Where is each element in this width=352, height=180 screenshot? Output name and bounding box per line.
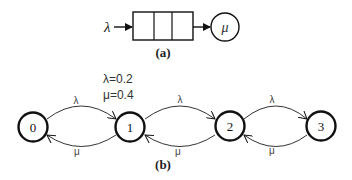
backward-rate-label: μ	[74, 146, 80, 157]
figure-b-markov-chain: λ=0.2 μ=0.4 λ λ λ μ μ μ 0 1 2 3	[19, 72, 336, 172]
service-rate-label: μ	[220, 20, 228, 35]
transition-3-to-2	[244, 135, 307, 147]
caption-a: (a)	[155, 45, 170, 60]
transition-1-to-2	[145, 106, 215, 119]
state-node-2: 2	[216, 112, 245, 141]
state-node-0: 0	[19, 113, 48, 142]
state-label: 3	[318, 119, 325, 134]
transition-2-to-3	[244, 106, 307, 119]
lambda-parameter: λ=0.2	[103, 72, 133, 86]
mu-parameter: μ=0.4	[103, 88, 134, 102]
forward-rate-label: λ	[74, 95, 79, 106]
caption-b: (b)	[155, 157, 171, 172]
arrival-rate-label: λ	[103, 19, 111, 35]
state-label: 1	[127, 120, 134, 135]
backward-rate-label: μ	[269, 145, 275, 156]
state-node-1: 1	[116, 113, 145, 142]
forward-rate-label: λ	[270, 94, 275, 105]
transition-1-to-0	[47, 135, 116, 147]
transition-0-to-1	[47, 106, 116, 119]
state-label: 2	[227, 119, 234, 134]
queue-buffer	[133, 12, 193, 40]
state-node-3: 3	[307, 112, 336, 141]
state-label: 0	[30, 120, 37, 135]
queue-diagrams: λ μ (a) λ=0.2 μ=0.4 λ λ λ μ μ μ	[0, 0, 352, 180]
transition-2-to-1	[145, 135, 215, 147]
forward-rate-label: λ	[178, 94, 183, 105]
figure-a-queue: λ μ (a)	[103, 12, 239, 60]
backward-rate-label: μ	[175, 146, 181, 157]
